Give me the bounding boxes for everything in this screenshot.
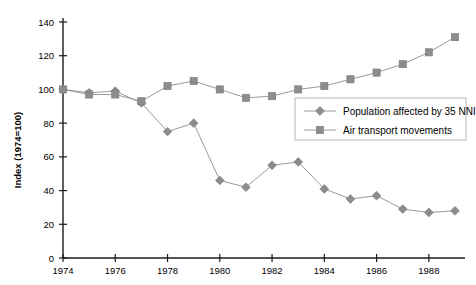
x-tick-label: 1974 [52,265,73,276]
data-point-square [138,98,145,105]
data-point-square [425,49,432,56]
data-point-square [112,91,119,98]
legend: Population affected by 35 NNIAir transpo… [295,98,476,140]
data-point-square [59,86,66,93]
data-point-square [164,82,171,89]
y-tick-label: 140 [38,17,54,28]
data-point-square [321,82,328,89]
data-point-diamond [424,208,433,217]
legend-label: Population affected by 35 NNI [343,106,476,117]
legend-label: Air transport movements [343,125,452,136]
data-point-diamond [398,205,407,214]
y-axis-title: Index (1974=100) [12,112,23,188]
legend-marker-square [316,126,323,133]
data-point-diamond [372,191,381,200]
data-point-square [347,76,354,83]
data-point-square [399,61,406,68]
data-point-square [216,86,223,93]
y-tick-label: 120 [38,50,54,61]
y-tick-label: 20 [43,219,54,230]
x-tick-label: 1984 [314,265,335,276]
data-point-square [242,94,249,101]
data-point-square [373,69,380,76]
data-point-square [295,86,302,93]
data-point-diamond [346,195,355,204]
y-tick-label: 100 [38,84,54,95]
y-tick-label: 80 [43,118,54,129]
series-line-2 [63,37,455,101]
y-tick-label: 60 [43,151,54,162]
y-tick-label: 40 [43,185,54,196]
data-point-square [190,77,197,84]
series-2 [59,34,458,105]
chart-container: 0204060801001201401974197619781980198219… [0,0,476,285]
line-chart: 0204060801001201401974197619781980198219… [0,0,476,285]
data-point-square [86,91,93,98]
x-tick-label: 1976 [105,265,126,276]
y-tick-label: 0 [49,253,54,264]
data-point-diamond [189,119,198,128]
data-point-square [268,93,275,100]
x-tick-label: 1986 [366,265,387,276]
x-tick-label: 1978 [157,265,178,276]
data-point-diamond [451,206,460,215]
x-tick-label: 1988 [418,265,439,276]
x-tick-label: 1980 [209,265,230,276]
data-point-square [451,34,458,41]
data-point-diamond [215,176,224,185]
x-tick-label: 1982 [261,265,282,276]
